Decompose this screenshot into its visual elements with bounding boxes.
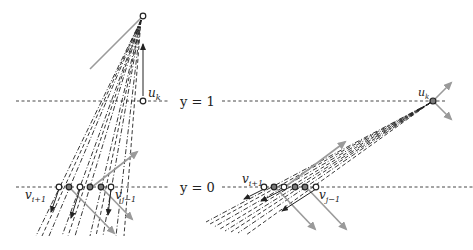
- left-node-5: [98, 184, 104, 190]
- right-uk-label: uk: [418, 86, 429, 101]
- left-node-1: [56, 184, 62, 190]
- label-y0: y = 0: [179, 180, 215, 195]
- right-uk-node: [430, 98, 436, 104]
- right-uk-gray-arrow-up: [433, 83, 451, 101]
- right-vi-label: vi+1: [242, 172, 263, 188]
- right-node-2: [271, 184, 277, 190]
- left-node-3: [77, 184, 83, 190]
- diagram: y = 1 y = 0 uk: [0, 0, 473, 250]
- right-node-3: [281, 184, 287, 190]
- right-black-arrow-1: [244, 189, 264, 199]
- right-node-6: [313, 184, 319, 190]
- right-node-5: [302, 184, 308, 190]
- right-vj-label: vj−1: [319, 188, 340, 204]
- right-node-4: [292, 184, 298, 190]
- right-uk-gray-arrow-down: [433, 101, 451, 119]
- left-top-node: [140, 13, 146, 19]
- diagram-canvas: y = 1 y = 0 uk: [0, 0, 473, 250]
- left-node-2: [66, 184, 72, 190]
- left-vj-label: vj−1: [115, 188, 136, 204]
- left-uk-label: uk: [148, 86, 161, 102]
- left-panel: uk vi+1 vj−1: [25, 13, 161, 236]
- label-y1: y = 1: [179, 94, 215, 109]
- right-gray-arrow-up: [285, 142, 345, 187]
- left-node-6: [108, 184, 114, 190]
- left-uk-node: [140, 98, 146, 104]
- right-panel: uk vi+1 vj−1: [206, 83, 451, 235]
- left-black-arrow-3: [108, 189, 111, 215]
- right-fan-lines: [206, 103, 430, 233]
- left-node-4: [87, 184, 93, 190]
- left-vi-label: vi+1: [25, 188, 46, 204]
